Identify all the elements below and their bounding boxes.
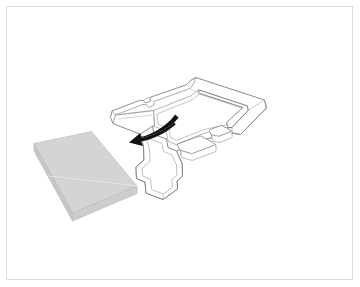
illustration-canvas: Isometric assembly illustration: a flat …: [0, 0, 360, 287]
gray-panel-group: [34, 132, 137, 222]
illustration-figure: Isometric assembly illustration: a flat …: [0, 0, 360, 287]
